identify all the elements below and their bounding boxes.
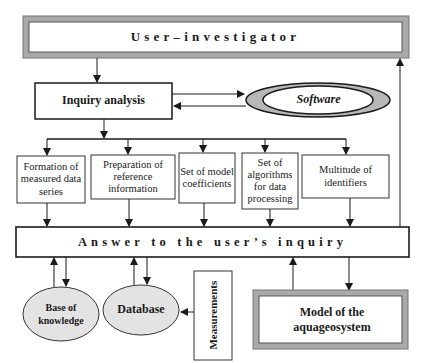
process-box-1-label: Formation of measured data series: [18, 157, 84, 202]
process-box-5-label: Multitude of identifiers: [318, 156, 373, 197]
measurements-label: Measurements: [207, 281, 219, 350]
measurements-label-wrap: Measurements: [194, 271, 232, 360]
database-label: Database: [103, 285, 179, 335]
process-box-4-label: Set of algorithms for data processing: [243, 154, 297, 208]
software-label: Software: [263, 86, 374, 114]
model-label: Model of the aquageosystem: [300, 296, 364, 343]
process-box-3-label: Set of model coefficients: [180, 154, 234, 202]
process-box-2-label: Preparation of reference information: [92, 156, 174, 198]
answer-label: Answer to the user’s inquiry: [16, 227, 409, 257]
user-investigator-label: User–investigator: [29, 22, 402, 52]
base-of-knowledge-label: Base of knowledge: [33, 296, 89, 332]
inquiry-analysis-label: Inquiry analysis: [35, 83, 172, 119]
